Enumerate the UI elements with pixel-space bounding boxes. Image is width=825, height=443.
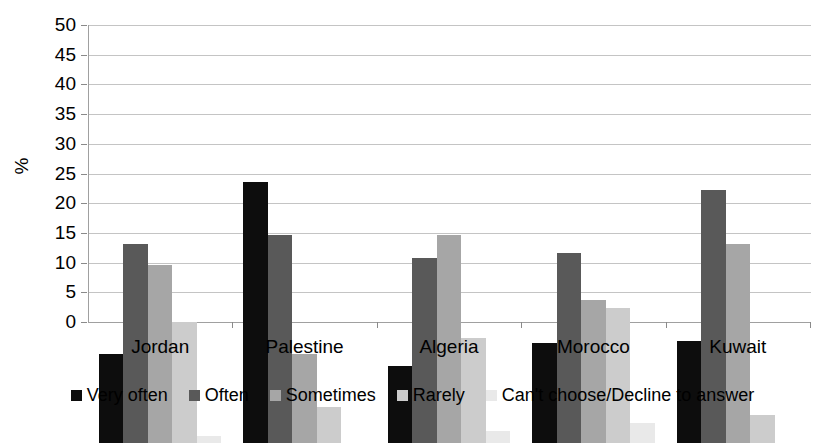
legend-item[interactable]: Often: [189, 385, 249, 405]
legend-swatch-icon: [189, 390, 200, 401]
y-tick-mark: [81, 174, 87, 175]
legend-label: Sometimes: [286, 385, 376, 405]
bar: [701, 190, 726, 443]
y-tick-mark: [81, 84, 87, 85]
legend-item[interactable]: Can't choose/Decline to answer: [486, 385, 755, 405]
legend-label: Very often: [87, 385, 168, 405]
x-tick-mark: [666, 322, 667, 328]
legend-item[interactable]: Sometimes: [270, 385, 376, 405]
bar-group: [99, 25, 222, 443]
chart-legend: Very oftenOftenSometimesRarelyCan't choo…: [0, 385, 825, 405]
y-tick-label: 15: [30, 223, 76, 242]
bar-group: [677, 25, 800, 443]
bar-group: [243, 25, 366, 443]
bar: [630, 423, 655, 443]
x-tick-mark: [521, 322, 522, 328]
y-tick-label: 25: [30, 164, 76, 183]
y-tick-mark: [81, 114, 87, 115]
y-tick-mark: [81, 233, 87, 234]
bar: [317, 407, 342, 443]
bar-group: [532, 25, 655, 443]
x-axis-category-label: Jordan: [88, 336, 232, 358]
bar-group: [388, 25, 511, 443]
y-tick-label: 10: [30, 253, 76, 272]
y-tick-mark: [81, 55, 87, 56]
bar: [197, 436, 222, 443]
legend-label: Can't choose/Decline to answer: [502, 385, 755, 405]
y-tick-mark: [81, 25, 87, 26]
y-tick-mark: [81, 322, 87, 323]
x-axis-category-label: Morocco: [521, 336, 665, 358]
x-tick-mark: [810, 322, 811, 328]
legend-label: Rarely: [413, 385, 465, 405]
y-tick-mark: [81, 203, 87, 204]
bar: [606, 308, 631, 443]
y-tick-mark: [81, 292, 87, 293]
y-tick-label: 20: [30, 193, 76, 212]
legend-item[interactable]: Rarely: [397, 385, 465, 405]
legend-swatch-icon: [270, 390, 281, 401]
bar: [486, 431, 511, 443]
legend-swatch-icon: [397, 390, 408, 401]
legend-label: Often: [205, 385, 249, 405]
y-tick-mark: [81, 144, 87, 145]
x-axis-category-label: Algeria: [377, 336, 521, 358]
y-tick-mark: [81, 263, 87, 264]
y-tick-label: 45: [30, 45, 76, 64]
legend-item[interactable]: Very often: [71, 385, 168, 405]
x-tick-mark: [377, 322, 378, 328]
y-tick-label: 5: [30, 282, 76, 301]
y-tick-label: 50: [30, 15, 76, 34]
y-tick-label: 35: [30, 104, 76, 123]
bar: [581, 300, 606, 443]
y-tick-label: 30: [30, 134, 76, 153]
legend-swatch-icon: [486, 390, 497, 401]
x-tick-mark: [232, 322, 233, 328]
y-tick-label: 0: [30, 312, 76, 331]
bar: [750, 415, 775, 443]
y-tick-label: 40: [30, 74, 76, 93]
x-axis-category-label: Kuwait: [666, 336, 810, 358]
legend-swatch-icon: [71, 390, 82, 401]
x-axis-category-label: Palestine: [232, 336, 376, 358]
